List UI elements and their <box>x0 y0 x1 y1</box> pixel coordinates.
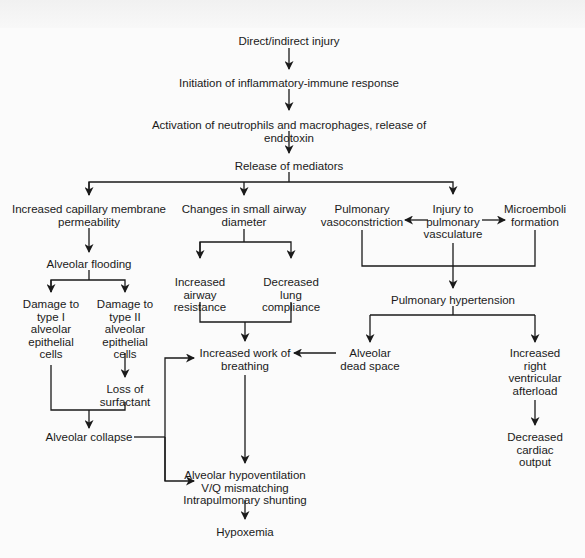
node-hypoxemia: Hypoxemia <box>216 526 274 539</box>
node-alveolar-dead-space: Alveolar dead space <box>340 347 399 372</box>
node-work-of-breathing: Increased work of breathing <box>200 347 291 372</box>
node-type2-damage: Damage to type II alveolar epithelial ce… <box>97 298 153 361</box>
node-inflammatory-immune-response: Initiation of inflammatory-immune respon… <box>179 77 399 90</box>
node-pulmonary-vasculature-injury: Injury to pulmonary vasculature <box>424 203 483 241</box>
node-microemboli-formation: Microemboli formation <box>504 203 566 228</box>
node-pulmonary-hypertension: Pulmonary hypertension <box>391 294 515 307</box>
node-decreased-cardiac-output: Decreased cardiac output <box>507 431 563 469</box>
node-small-airway-diameter: Changes in small airway diameter <box>182 203 307 228</box>
node-lung-compliance: Decreased lung compliance <box>262 276 320 314</box>
node-loss-of-surfactant: Loss of surfactant <box>100 383 151 408</box>
node-alveolar-flooding: Alveolar flooding <box>46 258 131 271</box>
node-airway-resistance: Increased airway resistance <box>174 276 226 314</box>
node-neutrophil-activation: Activation of neutrophils and macrophage… <box>141 119 437 144</box>
node-direct-indirect-injury: Direct/indirect injury <box>239 35 340 48</box>
node-rv-afterload: Increased right ventricular afterload <box>508 347 561 397</box>
node-alveolar-collapse: Alveolar collapse <box>46 431 133 444</box>
node-release-of-mediators: Release of mediators <box>235 160 344 173</box>
node-gas-exchange-impairment: Alveolar hypoventilation V/Q mismatching… <box>183 469 306 507</box>
node-type1-damage: Damage to type I alveolar epithelial cel… <box>23 298 79 361</box>
node-capillary-permeability: Increased capillary membrane permeabilit… <box>12 203 166 228</box>
node-pulmonary-vasoconstriction: Pulmonary vasoconstriction <box>321 203 403 228</box>
